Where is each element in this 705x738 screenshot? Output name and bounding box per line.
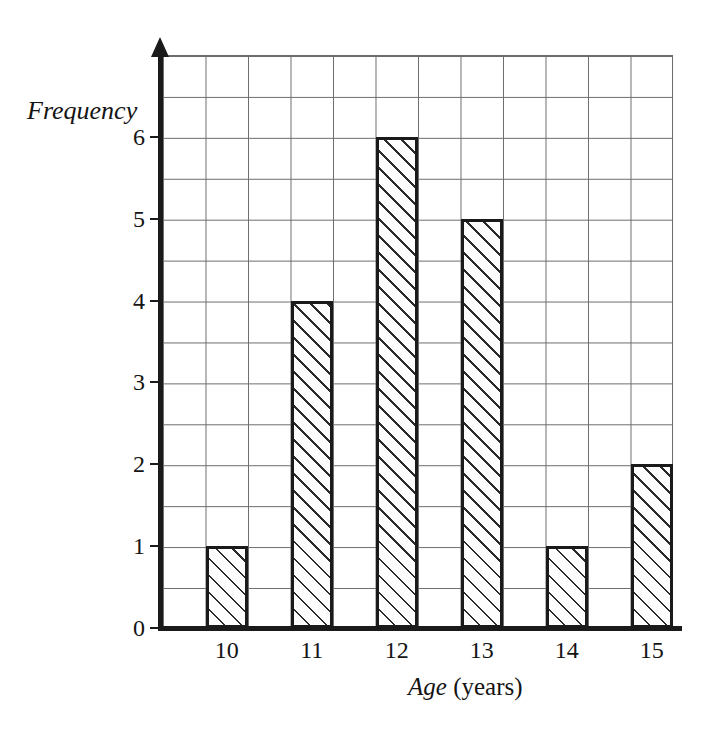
- y-axis-arrow-icon: [151, 37, 169, 57]
- y-axis-tick-label: 2: [113, 452, 145, 476]
- x-axis-tick-label: 13: [452, 637, 512, 663]
- x-axis-tick-label: 10: [197, 637, 257, 663]
- bar: [631, 464, 674, 628]
- frequency-bar-chart: 0123456 101112131415 Frequency Age (year…: [0, 0, 705, 738]
- x-axis-line: [158, 626, 682, 631]
- bar: [376, 137, 419, 628]
- y-axis-tick-label: 5: [113, 207, 145, 231]
- bar: [546, 546, 589, 628]
- y-axis-tick-label: 4: [113, 289, 145, 313]
- y-axis-tick: [150, 545, 159, 547]
- x-axis-title-variable: Age: [408, 673, 447, 700]
- y-axis-line: [158, 52, 163, 630]
- y-axis-tick: [150, 463, 159, 465]
- y-axis-tick-label: 1: [113, 534, 145, 558]
- y-axis-tick: [150, 381, 159, 383]
- y-axis-tick: [150, 300, 159, 302]
- y-axis-tick: [150, 218, 159, 220]
- y-axis-tick-label: 6: [113, 125, 145, 149]
- y-axis-tick-label: 3: [113, 370, 145, 394]
- x-axis-title: Age (years): [408, 672, 523, 702]
- x-axis-title-units: (years): [447, 673, 523, 700]
- y-axis-tick: [150, 136, 159, 138]
- bar: [206, 546, 249, 628]
- bar: [291, 301, 334, 628]
- y-axis-tick-label: 0: [113, 616, 145, 640]
- x-axis-tick-label: 15: [622, 637, 682, 663]
- x-axis-tick-label: 11: [282, 637, 342, 663]
- bar: [461, 219, 504, 628]
- x-axis-tick-label: 14: [537, 637, 597, 663]
- y-axis-title: Frequency: [27, 96, 137, 126]
- x-axis-tick-label: 12: [367, 637, 427, 663]
- plot-grid: [163, 55, 673, 628]
- y-axis-tick: [150, 627, 159, 629]
